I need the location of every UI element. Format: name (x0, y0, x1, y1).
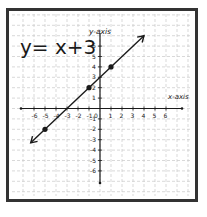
equation-label: y= x+3 (20, 35, 96, 59)
svg-text:-2: -2 (76, 112, 82, 119)
svg-text:-2: -2 (90, 125, 96, 132)
svg-text:-6: -6 (32, 112, 38, 119)
svg-text:-4: -4 (90, 146, 96, 153)
y-axis-label: y-axis (88, 27, 111, 36)
svg-text:2: 2 (120, 112, 124, 119)
svg-text:3: 3 (131, 112, 135, 119)
svg-text:5: 5 (153, 112, 157, 119)
svg-text:1: 1 (109, 112, 113, 119)
svg-text:-5: -5 (90, 157, 96, 164)
svg-text:-6: -6 (90, 167, 96, 174)
x-axis-label: x-axis (167, 93, 189, 101)
svg-text:4: 4 (142, 112, 146, 119)
svg-text:-1: -1 (90, 115, 96, 122)
svg-text:-5: -5 (43, 112, 49, 119)
svg-text:1: 1 (92, 94, 96, 101)
coordinate-plane: -6-5-4-3-2-10123456-6-5-4-3-2-1123456 y=… (0, 0, 207, 217)
svg-text:-3: -3 (90, 136, 96, 143)
svg-text:6: 6 (164, 112, 168, 119)
svg-text:4: 4 (92, 63, 96, 70)
graph-figure: -6-5-4-3-2-10123456-6-5-4-3-2-1123456 y=… (0, 0, 207, 217)
svg-text:-3: -3 (65, 112, 71, 119)
svg-text:3: 3 (92, 73, 96, 80)
